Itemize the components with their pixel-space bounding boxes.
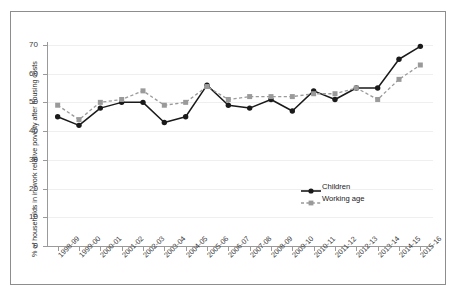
data-point-working-age — [226, 97, 231, 102]
data-point-working-age — [205, 84, 210, 89]
legend-item-children: Children — [300, 181, 396, 193]
data-point-working-age — [311, 91, 316, 96]
data-point-working-age — [162, 103, 167, 108]
legend-label-working-age: Working age — [322, 194, 365, 204]
data-point-working-age — [375, 97, 380, 102]
data-point-children — [247, 105, 252, 110]
data-point-working-age — [141, 88, 146, 93]
data-point-working-age — [290, 94, 295, 99]
legend-label-children: Children — [322, 182, 350, 192]
data-point-children — [226, 103, 231, 108]
series-line-children — [58, 46, 421, 125]
data-point-children — [290, 108, 295, 113]
data-point-children — [332, 97, 337, 102]
data-point-working-age — [55, 103, 60, 108]
data-point-working-age — [397, 77, 402, 82]
data-point-children — [55, 114, 60, 119]
data-point-children — [162, 120, 167, 125]
legend-marker-working-age — [300, 194, 322, 204]
data-point-working-age — [269, 94, 274, 99]
data-point-children — [396, 57, 401, 62]
data-point-working-age — [354, 85, 359, 90]
data-point-children — [140, 100, 145, 105]
data-point-working-age — [247, 94, 252, 99]
legend-item-working-age: Working age — [300, 193, 396, 205]
data-point-working-age — [98, 100, 103, 105]
legend-marker-children — [300, 182, 322, 192]
data-point-children — [98, 105, 103, 110]
data-point-children — [76, 123, 81, 128]
data-point-working-age — [333, 91, 338, 96]
series-plot-area — [0, 0, 456, 299]
chart-screenshot: % of households in in-work relative pove… — [0, 0, 456, 299]
data-point-working-age — [183, 100, 188, 105]
data-point-children — [375, 85, 380, 90]
data-point-children — [418, 44, 423, 49]
data-point-children — [183, 114, 188, 119]
series-line-working-age — [58, 65, 421, 120]
data-point-working-age — [77, 117, 82, 122]
data-point-working-age — [418, 63, 423, 68]
data-point-working-age — [119, 97, 124, 102]
chart-legend: Children Working age — [300, 181, 396, 207]
